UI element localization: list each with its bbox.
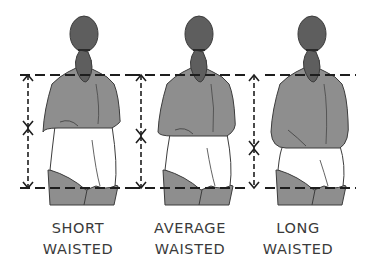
- measure-arrows-long: [249, 75, 259, 188]
- label-line-2: WAISTED: [18, 239, 138, 260]
- figure-average: [158, 16, 235, 205]
- hair-head: [70, 16, 98, 52]
- label-line-1: AVERAGE: [130, 218, 250, 239]
- figures-layer: [43, 16, 348, 205]
- hair-head: [185, 16, 213, 52]
- hair-head: [298, 16, 326, 52]
- label-line-1: SHORT: [18, 218, 138, 239]
- measure-arrows-average: [136, 75, 146, 188]
- label-line-1: LONG: [238, 218, 358, 239]
- figure-short: [43, 16, 120, 205]
- label-line-2: WAISTED: [130, 239, 250, 260]
- measure-arrows-short: [23, 75, 33, 188]
- label-short-waisted: SHORT WAISTED: [18, 218, 138, 260]
- figure-long: [271, 16, 348, 205]
- label-average-waisted: AVERAGE WAISTED: [130, 218, 250, 260]
- label-line-2: WAISTED: [238, 239, 358, 260]
- label-long-waisted: LONG WAISTED: [238, 218, 358, 260]
